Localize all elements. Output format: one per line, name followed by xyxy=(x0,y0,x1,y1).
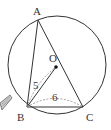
label-b: B xyxy=(17,111,24,123)
label-a: A xyxy=(33,5,41,17)
measure-bc: 6 xyxy=(52,91,58,103)
pencil-icon xyxy=(0,95,12,110)
center-point-o xyxy=(54,65,58,69)
measure-bo: 5 xyxy=(33,79,39,91)
geometry-diagram: A B C O 5 6 xyxy=(0,0,111,130)
segment-ac xyxy=(38,20,83,107)
label-o: O xyxy=(49,52,57,64)
label-c: C xyxy=(86,111,93,123)
